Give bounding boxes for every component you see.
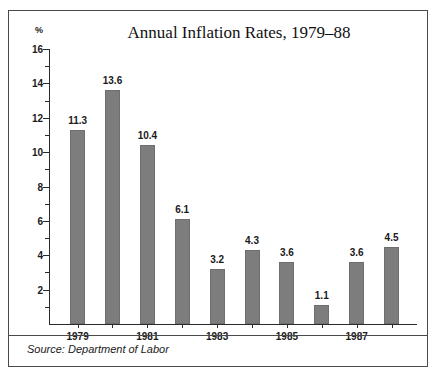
y-tick-label: 10 — [9, 147, 43, 158]
x-tick — [182, 325, 183, 328]
y-tick-label: 2 — [9, 284, 43, 295]
bar[interactable] — [349, 262, 364, 324]
bar[interactable] — [314, 305, 329, 324]
y-tick-major — [43, 255, 49, 256]
bar-value-label: 3.6 — [280, 247, 294, 258]
footer-divider — [9, 335, 427, 336]
y-tick-minor — [45, 66, 49, 67]
y-tick-label: 16 — [9, 44, 43, 55]
bar[interactable] — [70, 130, 85, 324]
bar-value-label: 13.6 — [103, 75, 122, 86]
x-tick — [112, 325, 113, 328]
x-tick — [322, 325, 323, 328]
y-tick-label: 8 — [9, 181, 43, 192]
bar[interactable] — [210, 269, 225, 324]
x-tick-label: 1985 — [276, 331, 298, 342]
bar-value-label: 3.2 — [210, 254, 224, 265]
y-axis-unit-label: % — [35, 25, 43, 35]
y-axis-line — [49, 49, 50, 325]
y-tick-minor — [45, 238, 49, 239]
y-tick-minor — [45, 169, 49, 170]
bar[interactable] — [140, 145, 155, 324]
y-tick-minor — [45, 135, 49, 136]
chart-title: Annual Inflation Rates, 1979–88 — [69, 23, 409, 43]
y-tick-label: 6 — [9, 215, 43, 226]
y-tick-minor — [45, 101, 49, 102]
x-tick-label: 1987 — [346, 331, 368, 342]
y-tick-major — [43, 187, 49, 188]
bar[interactable] — [245, 250, 260, 324]
source-note: Source: Department of Labor — [27, 343, 169, 355]
x-tick — [287, 325, 288, 328]
bar[interactable] — [279, 262, 294, 324]
x-tick — [357, 325, 358, 328]
y-tick-major — [43, 290, 49, 291]
x-tick-label: 1983 — [206, 331, 228, 342]
bar-value-label: 11.3 — [68, 115, 87, 126]
bar[interactable] — [175, 219, 190, 324]
y-tick-minor — [45, 272, 49, 273]
y-tick-minor — [45, 307, 49, 308]
plot-area: 246810121416 11.313.610.46.13.24.33.61.1… — [49, 49, 417, 325]
y-tick-major — [43, 49, 49, 50]
bar-value-label: 1.1 — [315, 290, 329, 301]
x-tick — [392, 325, 393, 328]
y-tick-major — [43, 152, 49, 153]
bar-value-label: 3.6 — [350, 247, 364, 258]
bar-value-label: 4.5 — [385, 232, 399, 243]
x-tick — [147, 325, 148, 328]
x-tick — [78, 325, 79, 328]
bar-value-label: 6.1 — [175, 204, 189, 215]
x-tick — [217, 325, 218, 328]
y-tick-major — [43, 221, 49, 222]
y-tick-label: 14 — [9, 78, 43, 89]
y-tick-minor — [45, 204, 49, 205]
bar-value-label: 10.4 — [138, 130, 157, 141]
x-tick-label: 1981 — [136, 331, 158, 342]
y-tick-major — [43, 83, 49, 84]
x-tick-label: 1979 — [66, 331, 88, 342]
x-tick — [252, 325, 253, 328]
x-axis-line — [49, 324, 417, 325]
chart-figure: Annual Inflation Rates, 1979–88 % 246810… — [8, 10, 428, 367]
bar-value-label: 4.3 — [245, 235, 259, 246]
y-tick-major — [43, 118, 49, 119]
y-tick-label: 4 — [9, 250, 43, 261]
bar[interactable] — [384, 247, 399, 324]
bar[interactable] — [105, 90, 120, 324]
y-tick-label: 12 — [9, 112, 43, 123]
